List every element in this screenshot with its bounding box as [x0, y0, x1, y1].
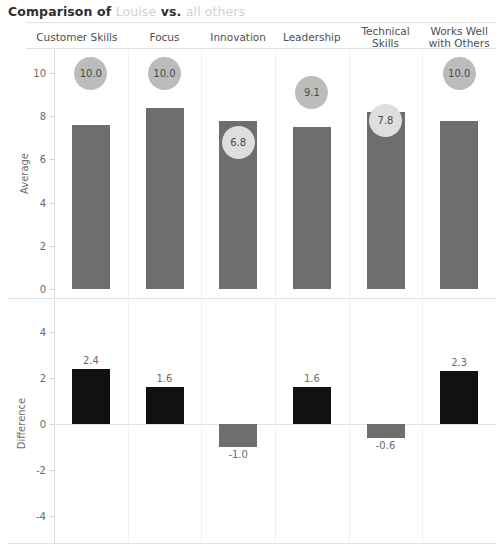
column-header-customer-skills: Customer Skills	[26, 23, 128, 50]
y-tick-mark-difference--2	[50, 470, 54, 471]
y-axis-line-difference	[54, 300, 55, 543]
column-header-technical-skills: Technical Skills	[349, 23, 423, 50]
bar-value-label: -0.6	[356, 440, 416, 451]
y-tick-label-average-2: 2	[40, 240, 46, 251]
bar-average[interactable]	[440, 121, 478, 289]
y-tick-mark-average-10	[50, 73, 54, 74]
y-tick-mark-difference-4	[50, 332, 54, 333]
y-tick-label-difference--2: -2	[36, 465, 46, 476]
bar-difference[interactable]	[72, 369, 110, 424]
y-tick-label-difference-0: 0	[40, 419, 46, 430]
y-tick-mark-average-0	[50, 289, 54, 290]
y-tick-mark-average-8	[50, 116, 54, 117]
bar-value-label: -1.0	[208, 449, 268, 460]
column-separator	[349, 300, 350, 543]
y-tick-mark-average-4	[50, 203, 54, 204]
panel-divider	[8, 298, 496, 299]
bar-value-label: 2.4	[61, 355, 121, 366]
column-separator	[201, 300, 202, 543]
y-axis-title-average: Average	[19, 144, 30, 204]
y-axis-line-average	[54, 50, 55, 298]
bar-average[interactable]	[146, 108, 184, 289]
bar-difference[interactable]	[219, 424, 257, 447]
y-tick-label-average-8: 8	[40, 111, 46, 122]
y-tick-mark-average-2	[50, 246, 54, 247]
column-separator	[201, 50, 202, 298]
column-header-innovation: Innovation	[201, 23, 275, 50]
visualization-canvas: Comparison of Louise vs. all others Cust…	[0, 0, 502, 553]
value-bubble[interactable]: 9.1	[295, 76, 328, 109]
y-tick-label-average-6: 6	[40, 154, 46, 165]
title-suffix: all others	[186, 4, 245, 19]
bar-value-label: 1.6	[282, 373, 342, 384]
y-tick-label-difference--4: -4	[36, 511, 46, 522]
y-tick-label-average-4: 4	[40, 197, 46, 208]
bar-difference[interactable]	[367, 424, 405, 438]
page-title: Comparison of Louise vs. all others	[8, 4, 245, 19]
title-subject: Louise	[116, 4, 157, 19]
y-tick-mark-difference-2	[50, 378, 54, 379]
column-separator	[275, 50, 276, 298]
value-bubble[interactable]: 7.8	[369, 104, 402, 137]
panel-difference: -4-2024Difference2.41.6-1.01.6-0.62.3	[0, 300, 502, 543]
y-tick-label-average-10: 10	[33, 68, 46, 79]
value-bubble[interactable]: 10.0	[443, 57, 476, 90]
y-tick-mark-average-6	[50, 159, 54, 160]
column-separator	[422, 300, 423, 543]
y-tick-mark-difference--4	[50, 516, 54, 517]
value-bubble[interactable]: 10.0	[74, 57, 107, 90]
bar-average[interactable]	[293, 127, 331, 289]
column-header-band: Customer SkillsFocusInnovationLeadership…	[26, 22, 496, 49]
column-separator	[422, 50, 423, 298]
bar-average[interactable]	[72, 125, 110, 289]
column-separator	[349, 50, 350, 298]
column-separator	[275, 300, 276, 543]
bar-difference[interactable]	[440, 371, 478, 424]
column-separator	[128, 300, 129, 543]
bar-value-label: 1.6	[135, 373, 195, 384]
column-separator	[128, 50, 129, 298]
y-tick-label-difference-2: 2	[40, 373, 46, 384]
column-header-leadership: Leadership	[275, 23, 349, 50]
title-prefix: Comparison of	[8, 4, 116, 19]
y-tick-label-difference-4: 4	[40, 327, 46, 338]
bar-value-label: 2.3	[429, 357, 489, 368]
value-bubble[interactable]: 10.0	[148, 57, 181, 90]
title-middle: vs.	[156, 4, 186, 19]
panel-average: 0246810Average10.010.06.89.17.810.0	[0, 50, 502, 298]
y-axis-title-difference: Difference	[16, 394, 27, 454]
value-bubble[interactable]: 6.8	[222, 126, 255, 159]
column-header-works-well-with-others: Works Well with Others	[422, 23, 496, 50]
bar-difference[interactable]	[293, 387, 331, 424]
bottom-border	[8, 543, 496, 544]
y-tick-label-average-0: 0	[40, 284, 46, 295]
bar-average[interactable]	[367, 112, 405, 289]
column-header-focus: Focus	[128, 23, 202, 50]
bar-difference[interactable]	[146, 387, 184, 424]
